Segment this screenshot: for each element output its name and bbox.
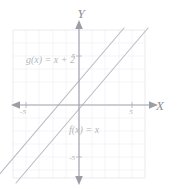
x-tick-label-negative-5: -5 [20,108,26,116]
annotation-g-function: g(x) = x + 2 [26,54,75,66]
annotation-f-function: f(x) = x [69,124,100,136]
y-axis-arrow-down [75,176,83,185]
coordinate-plane-plot: -5 5 5 -5 X Y g(x) = x + 2 f(x) = x [0,0,177,189]
graph-figure: -5 5 5 -5 X Y g(x) = x + 2 f(x) = x [0,0,177,189]
y-tick-label-negative-5: -5 [69,154,75,162]
y-axis-label: Y [77,6,86,21]
x-tick-label-positive-5: 5 [129,108,133,116]
x-axis-label: X [155,98,165,113]
y-axis-arrow-up [75,20,83,29]
